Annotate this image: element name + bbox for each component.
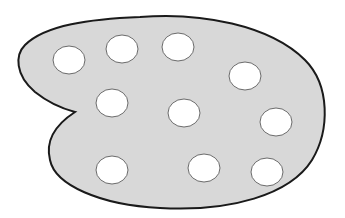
paint-well-2: [106, 35, 138, 63]
paint-well-10: [251, 158, 283, 186]
paint-well-5: [96, 89, 128, 117]
paint-well-8: [96, 156, 128, 184]
paint-well-1: [53, 46, 85, 74]
paint-well-6: [168, 99, 200, 127]
paint-well-4: [229, 62, 261, 90]
paint-well-7: [260, 108, 292, 136]
paint-well-9: [188, 154, 220, 182]
palette-diagram: [0, 0, 345, 218]
paint-well-3: [162, 33, 194, 61]
